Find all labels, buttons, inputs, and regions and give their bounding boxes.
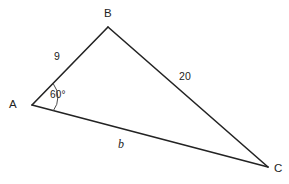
triangle-svg-canvas bbox=[0, 0, 289, 184]
side-ab-line bbox=[32, 27, 108, 105]
triangle-diagram: A B C 9 20 b 60° bbox=[0, 0, 289, 184]
vertex-label-c: C bbox=[274, 163, 283, 175]
vertex-label-b: B bbox=[104, 8, 112, 20]
side-label-ab: 9 bbox=[54, 51, 60, 62]
side-label-ac: b bbox=[118, 138, 124, 150]
side-label-bc: 20 bbox=[179, 71, 191, 82]
vertex-label-a: A bbox=[9, 99, 17, 111]
angle-label-a: 60° bbox=[50, 90, 66, 100]
